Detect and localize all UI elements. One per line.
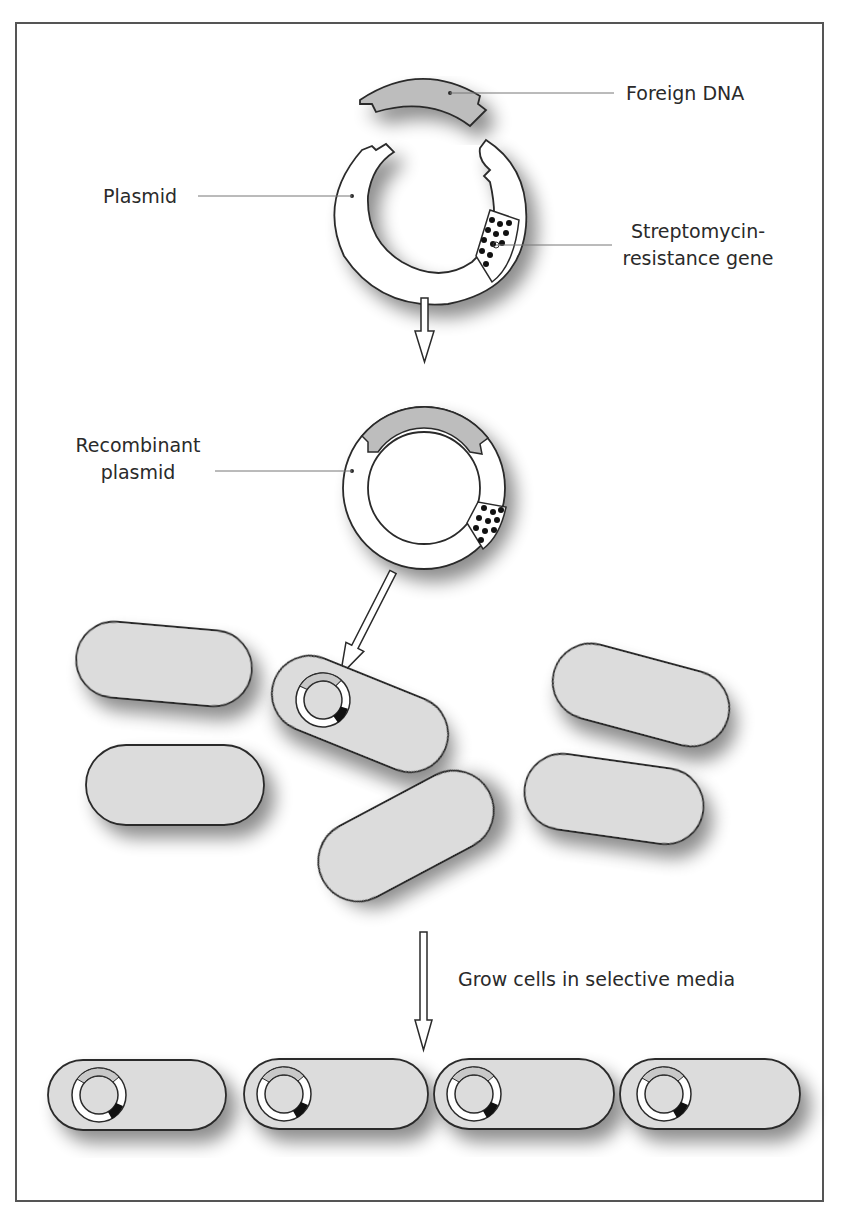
label-recombinant-line1: Recombinant xyxy=(70,432,206,459)
label-grow-cells: Grow cells in selective media xyxy=(458,966,735,993)
cell-top-left xyxy=(73,618,255,709)
cell-middle-left xyxy=(86,745,264,825)
selected-cell-4-plasmid xyxy=(637,1067,691,1121)
cell-middle-right xyxy=(520,749,709,849)
cell-bottom-center xyxy=(304,757,508,916)
selected-cell-1-plasmid xyxy=(72,1068,126,1122)
arrow-down-2 xyxy=(415,932,432,1050)
arrow-down-1 xyxy=(415,298,434,362)
cell-transformed xyxy=(260,644,459,783)
label-recombinant-plasmid: Recombinant plasmid xyxy=(70,432,206,486)
cell-top-right xyxy=(544,635,738,755)
label-plasmid: Plasmid xyxy=(103,183,177,210)
selected-cell-2-plasmid xyxy=(257,1067,311,1121)
selected-cell-3-plasmid xyxy=(447,1067,501,1121)
foreign-dna-fragment xyxy=(360,79,486,126)
label-foreign-dna: Foreign DNA xyxy=(626,80,744,107)
label-streptomycin-line1: Streptomycin- xyxy=(618,218,778,245)
label-streptomycin-line2: resistance gene xyxy=(618,245,778,272)
label-recombinant-line2: plasmid xyxy=(70,459,206,486)
label-streptomycin: Streptomycin- resistance gene xyxy=(618,218,778,272)
arrow-diagonal xyxy=(331,567,401,679)
